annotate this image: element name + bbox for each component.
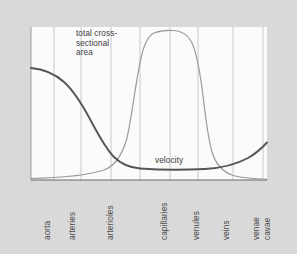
x-tick-label-cavae: cavae (263, 218, 272, 240)
x-tick-label-capillaries: capillaries (160, 202, 169, 240)
annotation-total-cross-sectional-area: total cross- sectional area (76, 29, 117, 58)
gridlines (31, 27, 263, 180)
annotation-velocity: velocity (155, 156, 183, 166)
x-tick-label-arterioles: arterioles (106, 205, 115, 240)
x-tick-label-veins: veins (222, 220, 231, 240)
series-velocity (31, 68, 267, 170)
chart-canvas (0, 0, 297, 254)
x-tick-label-aorta: aorta (43, 221, 52, 240)
x-tick-label-venules: venules (192, 211, 201, 240)
series-total-cross-sectional-area (31, 30, 267, 179)
figure-container: total cross- sectional area velocity aor… (0, 0, 297, 254)
x-tick-label-venae: venae (252, 217, 261, 240)
x-tick-label-arteries: arteries (68, 212, 77, 240)
